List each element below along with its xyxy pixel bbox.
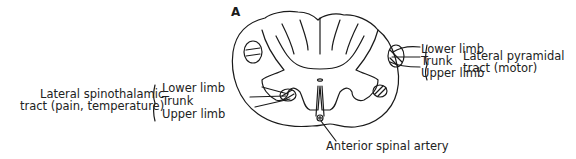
lateral-pyramidal-label-2: tract (motor) [463, 62, 537, 74]
anterior-spinal-artery-label: Anterior spinal artery [326, 140, 449, 152]
right-spinothalamic-tract [373, 85, 387, 97]
left-dorsal-tract [244, 41, 262, 63]
spinal-cord-diagram [0, 0, 576, 159]
left-trunk-label: Trunk [162, 95, 193, 107]
lateral-spinothalamic-label-2: tract (pain, temperature) [20, 100, 145, 112]
left-lower-limb-label: Lower limb [162, 82, 225, 94]
left-upper-limb-label: Upper limb [162, 108, 225, 120]
